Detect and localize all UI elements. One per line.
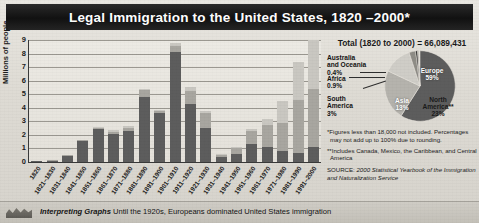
bar-slot (275, 40, 290, 162)
pie-total-label: Total (1820 to 2000) = 66,089,431 (326, 38, 478, 48)
bar-segment-asia (293, 62, 304, 100)
bar-slot (214, 40, 229, 162)
bar-segment-europe (47, 161, 58, 162)
bar-chart-panel: Millions of people 0123456789 18201821–1… (0, 32, 322, 204)
y-axis-tick: 3 (22, 118, 26, 126)
bar-segment-europe (216, 157, 227, 162)
bar-chart-plot-area: 0123456789 (28, 40, 321, 163)
bar (93, 127, 104, 162)
bar (108, 130, 119, 162)
bar-segment-europe (62, 156, 73, 163)
bar (277, 101, 288, 162)
footnotes: *Figures less than 18,000 not included. … (327, 128, 477, 181)
y-axis-tick: 6 (22, 77, 26, 85)
x-label-slot: 1991–2000 (305, 163, 320, 205)
bar (123, 126, 134, 162)
bar-segment-europe (139, 97, 150, 162)
bar-segment-asia (277, 101, 288, 123)
source-line: SOURCE: 2000 Statistical Yearbook of the… (327, 166, 477, 181)
bar-slot (306, 40, 321, 162)
bar (62, 155, 73, 163)
bar-segment-europe (31, 161, 42, 162)
caption-heading: Interpreting Graphs (40, 207, 111, 216)
bar-segment-americas-and-other (246, 131, 257, 145)
y-axis-tick: 1 (22, 145, 26, 153)
bar-slot (60, 40, 75, 162)
bar-series (29, 40, 321, 162)
bar-segment-asia (308, 40, 319, 89)
infographic-page: Legal Immigration to the United States, … (0, 0, 479, 223)
x-axis-tick: 1820 (28, 165, 42, 181)
bar-segment-europe (123, 131, 134, 162)
y-axis-tick: 4 (22, 104, 26, 112)
bar-slot (44, 40, 59, 162)
bar-slot (290, 40, 305, 162)
bar-slot (75, 40, 90, 162)
bar-segment-europe (93, 129, 104, 162)
bar-segment-europe (200, 128, 211, 162)
bar (308, 40, 319, 162)
chart-title-bar: Legal Immigration to the United States, … (6, 4, 473, 30)
pie-slice-north-america-label: NorthAmerica**23% (418, 97, 458, 118)
bar (200, 111, 211, 162)
pie-slice-europe-label: Europe59% (414, 68, 450, 82)
bar-slot (244, 40, 259, 162)
pie-slice-asia-label: Asia13% (390, 98, 414, 112)
page-title: Legal Immigration to the United States, … (69, 10, 410, 25)
bar (293, 62, 304, 162)
pie-chart-panel: Total (1820 to 2000) = 66,089,431 Europe… (322, 32, 479, 204)
bar (246, 129, 257, 162)
bar-segment-europe (277, 151, 288, 162)
bar-slot (152, 40, 167, 162)
bar-segment-americas-and-other (185, 91, 196, 104)
bar (77, 140, 88, 162)
bar-segment-americas-and-other (262, 125, 273, 147)
leader-line-australia (360, 72, 386, 73)
bar-segment-americas-and-other (308, 89, 319, 147)
bar-slot (198, 40, 213, 162)
bar-segment-americas-and-other (139, 90, 150, 97)
bar-segment-europe (185, 104, 196, 162)
caption-text: Interpreting Graphs Until the 1920s, Eur… (40, 207, 470, 216)
bar-segment-americas-and-other (277, 123, 288, 151)
pie-chart-area: Europe59% NorthAmerica**23% Asia13% Aust… (322, 50, 479, 124)
bar-slot (260, 40, 275, 162)
bar-segment-europe (170, 52, 181, 162)
bar-segment-americas-and-other (200, 113, 211, 128)
bar-segment-europe (246, 144, 257, 162)
bar (47, 160, 58, 162)
caption-bar: Interpreting Graphs Until the 1920s, Eur… (0, 201, 479, 223)
bar (185, 87, 196, 162)
chart-icon (6, 207, 32, 218)
bar-segment-europe (108, 134, 119, 162)
bar (139, 89, 150, 162)
pie-legend-south-america: SouthAmerica3% (327, 95, 369, 117)
bar (31, 161, 42, 162)
y-axis-label: Millions of people (1, 21, 10, 84)
caption-body: Until the 1920s, Europeans dominated Uni… (113, 207, 331, 216)
bar-segment-europe (293, 153, 304, 162)
y-axis-tick: 2 (22, 131, 26, 139)
bar-segment-europe (308, 147, 319, 162)
bar-slot (137, 40, 152, 162)
leader-line-africa (349, 77, 385, 78)
bar-slot (91, 40, 106, 162)
y-axis-tick: 9 (22, 36, 26, 44)
bar-segment-europe (77, 141, 88, 162)
bar (262, 119, 273, 162)
y-axis-tick: 7 (22, 63, 26, 71)
footnote-1: *Figures less than 18,000 not included. … (327, 128, 477, 143)
x-axis-labels: 18201821–18301831–18401841–18501851–1860… (28, 163, 320, 205)
bar (170, 43, 181, 162)
bar-slot (183, 40, 198, 162)
bar-segment-europe (231, 154, 242, 162)
bar-slot (229, 40, 244, 162)
footnote-2: **Includes Canada, Mexico, the Caribbean… (327, 147, 477, 162)
bar (216, 154, 227, 162)
bar-slot (121, 40, 136, 162)
bar-slot (167, 40, 182, 162)
bar (154, 110, 165, 162)
y-axis-tick: 0 (22, 158, 26, 166)
bar-slot (106, 40, 121, 162)
bar-segment-europe (262, 147, 273, 162)
